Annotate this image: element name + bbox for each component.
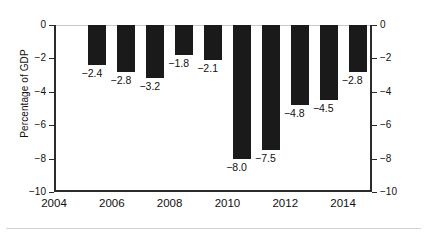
x-tick-label: 2004 [41,197,67,209]
y-tick-mark-right [372,58,377,59]
y-tick-label-left: −6 [35,120,46,130]
y-tick-mark-right [372,25,377,26]
bar-value-label: −2.8 [342,75,363,86]
bar-value-label: −1.8 [168,58,189,69]
plot-area: 0−2−4−6−8−10 0−2−4−6−8−10 20042006200820… [54,25,372,192]
bar-value-label: −8.0 [226,162,247,173]
bar [233,25,251,159]
footer-divider [6,228,421,229]
y-tick-label-left: −4 [35,87,46,97]
y-tick-mark-right [372,192,377,193]
y-tick-label-left: 0 [40,20,46,30]
bar [146,25,164,78]
y-tick-label-left: −10 [29,187,46,197]
y-tick-label-right: −10 [380,187,397,197]
bar [175,25,193,55]
right-axis-line [370,25,372,192]
x-tick-label: 2006 [99,197,125,209]
chart-figure: Percentage of GDP 0−2−4−6−8−10 0−2−4−6−8… [0,0,427,241]
bottom-axis-line [54,190,372,192]
y-tick-mark-right [372,92,377,93]
y-tick-label-right: −8 [380,154,391,164]
bar [320,25,338,100]
x-tick-label: 2014 [330,197,356,209]
bar [291,25,309,105]
bar-value-label: −2.4 [82,68,103,79]
y-tick-label-right: −2 [380,53,391,63]
bar [117,25,135,72]
y-tick-label-right: −4 [380,87,391,97]
bar-value-label: −4.8 [284,108,305,119]
bar [204,25,222,60]
x-tick-label: 2012 [272,197,298,209]
y-tick-label-left: −8 [35,154,46,164]
bar-value-label: −2.8 [111,75,132,86]
bar-value-label: −7.5 [255,153,276,164]
y-tick-mark-left [49,92,54,93]
bar [88,25,106,65]
y-tick-label-right: −6 [380,120,391,130]
y-tick-mark-left [49,25,54,26]
bar [262,25,280,150]
bar-value-label: −4.5 [313,103,334,114]
bar-value-label: −3.2 [139,81,160,92]
y-tick-mark-left [49,125,54,126]
y-tick-label-right: 0 [380,20,386,30]
x-tick-label: 2008 [157,197,183,209]
bar [349,25,367,72]
bar-value-label: −2.1 [197,63,218,74]
y-tick-mark-right [372,159,377,160]
y-tick-mark-left [49,58,54,59]
y-tick-mark-left [49,192,54,193]
y-tick-mark-left [49,159,54,160]
y-tick-label-left: −2 [35,53,46,63]
y-tick-mark-right [372,125,377,126]
y-axis-title: Percentage of GDP [19,24,30,164]
left-axis-line [54,25,56,192]
x-tick-label: 2010 [215,197,241,209]
